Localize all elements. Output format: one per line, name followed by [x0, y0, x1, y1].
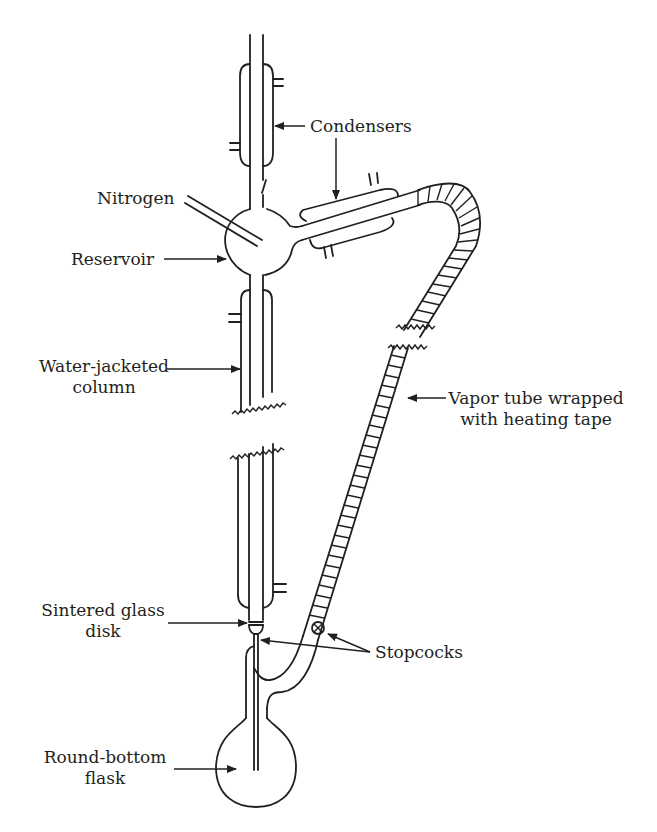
water-jacketed-column-upper	[229, 275, 286, 414]
label-stopcocks: Stopcocks	[375, 642, 463, 663]
vapor-tube-lower	[303, 345, 427, 640]
label-vapor-tube-line1: Vapor tube wrapped	[446, 388, 626, 409]
label-vapor-tube: Vapor tube wrapped with heating tape	[446, 388, 626, 430]
label-sintered-line2: disk	[38, 621, 168, 642]
sintered-glass-disk	[249, 622, 263, 770]
label-water-jacketed-line1: Water-jacketed	[38, 356, 170, 377]
heating-tape-rungs	[309, 355, 405, 618]
label-flask-line1: Round-bottom	[38, 747, 172, 768]
label-condensers: Condensers	[310, 116, 412, 137]
annotation-arrows	[164, 126, 446, 769]
label-vapor-tube-line2: with heating tape	[446, 409, 626, 430]
label-nitrogen: Nitrogen	[97, 188, 174, 209]
return-tube	[254, 636, 318, 708]
reservoir-bulb	[225, 195, 302, 275]
label-flask-line2: flask	[38, 768, 172, 789]
top-condenser	[230, 35, 283, 200]
extraction-apparatus-diagram: Condensers Nitrogen Reservoir Water-jack…	[0, 0, 657, 832]
label-sintered-glass-disk: Sintered glass disk	[38, 600, 168, 642]
label-water-jacketed-column: Water-jacketed column	[38, 356, 170, 398]
vapor-tube-upper	[396, 184, 480, 338]
water-jacketed-column-lower	[230, 444, 286, 620]
label-reservoir: Reservoir	[71, 249, 154, 270]
label-sintered-line1: Sintered glass	[38, 600, 168, 621]
side-condenser	[300, 173, 420, 258]
label-water-jacketed-line2: column	[38, 377, 170, 398]
label-round-bottom-flask: Round-bottom flask	[38, 747, 172, 789]
